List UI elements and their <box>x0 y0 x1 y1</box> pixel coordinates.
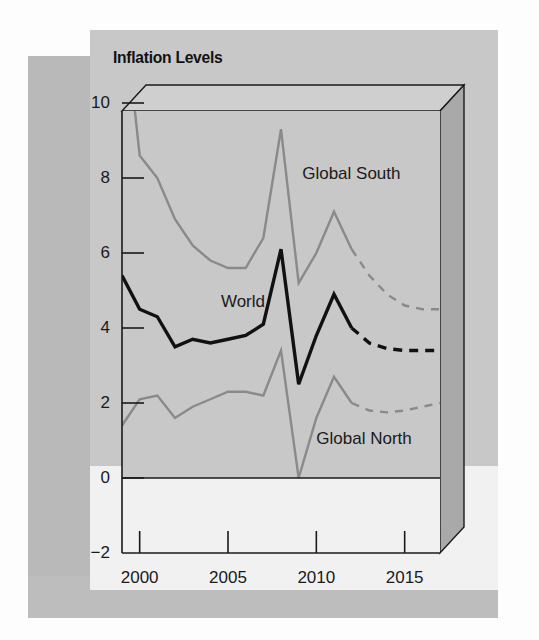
y-tick-label: 6 <box>66 244 110 261</box>
series-annotation: World <box>221 293 265 310</box>
plot-area-below-zero <box>122 478 440 553</box>
series-annotation: Global North <box>316 430 411 447</box>
y-tick-label: 4 <box>66 319 110 336</box>
x-tick-label: 2015 <box>370 569 440 586</box>
x-tick-label: 2005 <box>193 569 263 586</box>
y-tick-label: 8 <box>66 169 110 186</box>
y-tick-label: −2 <box>66 544 110 561</box>
x-tick-label: 2000 <box>105 569 175 586</box>
x-tick-label: 2010 <box>281 569 351 586</box>
inflation-levels-chart: −202468102000200520102015Global SouthWor… <box>0 0 539 640</box>
y-tick-label: 10 <box>66 94 110 111</box>
y-tick-label: 0 <box>66 469 110 486</box>
box-right-face <box>440 85 464 553</box>
box-top-face <box>122 85 464 111</box>
y-tick-label: 2 <box>66 394 110 411</box>
scanned-page: Inflation Levels −2024681020002005201020… <box>0 0 539 640</box>
series-annotation: Global South <box>302 165 400 182</box>
